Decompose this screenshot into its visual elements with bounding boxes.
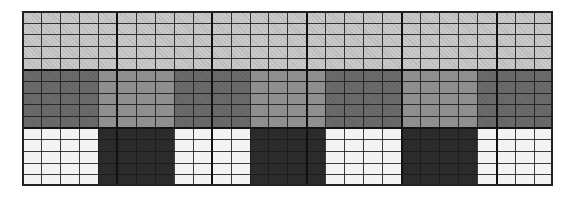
checker-grid-diagram: [22, 11, 553, 186]
grid-outer-border: [22, 11, 553, 186]
